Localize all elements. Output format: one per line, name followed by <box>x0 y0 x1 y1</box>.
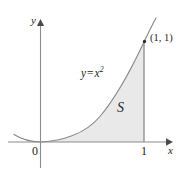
shaded-region-s <box>41 42 145 142</box>
point-label-1-1: (1, 1) <box>150 33 173 44</box>
origin-tick-label: 0 <box>32 145 38 157</box>
curve-equation-label: y=x2 <box>81 66 104 79</box>
equation-exponent: 2 <box>100 65 104 74</box>
y-axis-arrowhead <box>37 19 44 26</box>
figure-container: y x 0 1 (1, 1) y=x2 S <box>0 0 185 178</box>
x-tick-label-1: 1 <box>141 145 147 157</box>
region-label-s: S <box>117 101 124 115</box>
parabola-area-figure <box>0 0 185 178</box>
equation-equals-sign: = <box>86 67 95 79</box>
point-marker-1-1 <box>143 40 146 43</box>
x-axis-label: x <box>168 145 173 156</box>
y-axis-label: y <box>31 15 36 26</box>
